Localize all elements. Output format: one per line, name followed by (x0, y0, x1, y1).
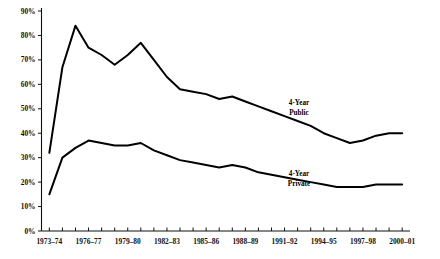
y-tick-label: 90% (21, 7, 36, 16)
series-label-2-line2: Private (288, 180, 310, 188)
series-label-1-line2: Public (289, 109, 309, 117)
series-label-1-line1: 4-Year (289, 99, 310, 107)
y-tick-label: 50% (21, 104, 36, 113)
y-tick-label: 30% (21, 153, 36, 162)
x-tick-label: 1973–74 (36, 237, 62, 246)
x-tick-label: 2000–01 (389, 237, 415, 246)
y-tick-label: 70% (21, 55, 36, 64)
series-annotations: 4-YearPublic4-YearPrivate (288, 99, 310, 188)
series-line-1 (49, 26, 402, 153)
x-tick-label: 1982–83 (154, 237, 180, 246)
x-axis: 1973–741976–771979–801982–831985–861988–… (36, 228, 415, 247)
x-tick-label: 1994–95 (311, 237, 337, 246)
x-tick-label: 1979–80 (115, 237, 141, 246)
line-chart: 0%10%20%30%40%50%60%70%80%90% 1973–74197… (0, 0, 440, 259)
x-tick-label: 1991–92 (272, 237, 298, 246)
chart-container: 0%10%20%30%40%50%60%70%80%90% 1973–74197… (0, 0, 440, 259)
x-tick-label: 1985–86 (193, 237, 219, 246)
x-tick-label: 1976–77 (76, 237, 102, 246)
data-series-group (49, 26, 402, 195)
x-tick-label: 1997–98 (350, 237, 376, 246)
series-label-2-line1: 4-Year (289, 170, 310, 178)
series-line-2 (49, 141, 402, 195)
y-tick-label: 40% (21, 129, 36, 138)
y-tick-label: 80% (21, 31, 36, 40)
y-axis: 0%10%20%30%40%50%60%70%80%90% (21, 7, 42, 236)
y-tick-label: 60% (21, 80, 36, 89)
x-tick-label: 1988–89 (232, 237, 258, 246)
y-tick-label: 20% (21, 178, 36, 187)
y-tick-label: 10% (21, 202, 36, 211)
y-tick-label: 0% (24, 227, 35, 236)
